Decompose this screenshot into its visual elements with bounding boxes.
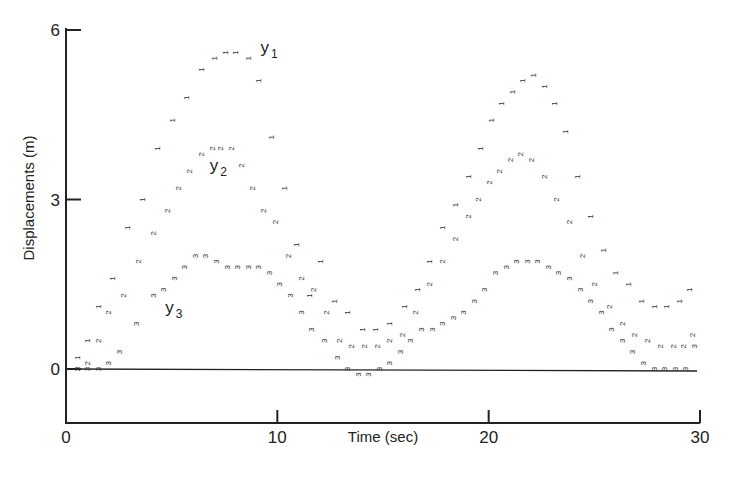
data-point-marker: 1 <box>182 95 191 100</box>
data-point-marker: 2 <box>322 310 331 315</box>
data-point-marker: 1 <box>529 72 538 77</box>
data-point-marker: 3 <box>586 298 595 303</box>
data-point-marker: 3 <box>417 327 426 332</box>
y-axis-title: Displacements (m) <box>20 135 37 260</box>
data-point-marker: 2 <box>506 157 515 162</box>
data-point-marker: 2 <box>83 361 92 366</box>
data-point-marker: 2 <box>464 214 473 219</box>
series-label-y2: y2 <box>210 156 228 179</box>
data-point-marker: 2 <box>540 174 549 179</box>
data-point-marker: 3 <box>491 270 500 275</box>
data-point-marker: 3 <box>180 265 189 270</box>
data-point-marker: 2 <box>360 344 369 349</box>
data-point-marker: 1 <box>244 55 253 60</box>
data-point-marker: 3 <box>512 259 521 264</box>
data-point-marker: 3 <box>333 355 342 360</box>
data-point-marker: 3 <box>364 372 373 377</box>
data-point-marker: 2 <box>656 344 665 349</box>
data-point-marker: 2 <box>618 321 627 326</box>
data-point-marker: 2 <box>347 344 356 349</box>
data-point-marker: 3 <box>254 265 263 270</box>
data-point-marker: 1 <box>518 78 527 83</box>
data-point-marker: 3 <box>354 372 363 377</box>
data-point-marker: 1 <box>371 327 380 332</box>
data-point-marker: 2 <box>398 332 407 337</box>
data-point-marker: 1 <box>561 129 570 134</box>
data-point-marker: 3 <box>480 287 489 292</box>
data-point-marker: 1 <box>210 55 219 60</box>
data-point-marker: 1 <box>662 304 671 309</box>
data-point-marker: 2 <box>373 344 382 349</box>
y-tick-label: 0 <box>51 360 60 379</box>
x-tick-label: 0 <box>61 428 70 447</box>
data-point-marker: 2 <box>630 332 639 337</box>
data-point-marker: 2 <box>174 185 183 190</box>
data-point-marker: 3 <box>385 361 394 366</box>
data-point-marker: 1 <box>464 174 473 179</box>
data-point-marker: 3 <box>607 327 616 332</box>
data-point-marker: 1 <box>73 355 82 360</box>
data-point-marker: 2 <box>248 185 257 190</box>
data-point-marker: 2 <box>185 168 194 173</box>
data-point-marker: 2 <box>474 197 483 202</box>
data-point-marker: 1 <box>153 146 162 151</box>
data-point-marker: 3 <box>523 259 532 264</box>
x-tick-label: 20 <box>479 428 498 447</box>
data-point-marker: 1 <box>138 197 147 202</box>
data-point-marker: 1 <box>540 84 549 89</box>
data-point-marker: 2 <box>104 310 113 315</box>
data-point-marker: 2 <box>605 304 614 309</box>
data-point-marker: 1 <box>650 304 659 309</box>
data-point-marker: 3 <box>115 349 124 354</box>
data-point-marker: 1 <box>573 174 582 179</box>
data-point-marker: 3 <box>159 287 168 292</box>
data-point-marker: 3 <box>375 366 384 371</box>
data-point-marker: 1 <box>385 321 394 326</box>
data-point-marker: 3 <box>628 349 637 354</box>
data-point-marker: 2 <box>643 338 652 343</box>
data-point-marker: 1 <box>624 281 633 286</box>
data-point-marker: 1 <box>637 298 646 303</box>
data-point-marker: 2 <box>227 146 236 151</box>
y-tick-label: 3 <box>51 191 60 210</box>
data-point-marker: 2 <box>578 253 587 258</box>
data-point-marker: 3 <box>396 349 405 354</box>
data-point-marker: 2 <box>516 152 525 157</box>
data-point-marker: 1 <box>476 146 485 151</box>
data-point-marker: 3 <box>428 327 437 332</box>
data-point-marker: 2 <box>565 219 574 224</box>
data-point-marker: 1 <box>413 287 422 292</box>
data-point-marker: 2 <box>485 180 494 185</box>
data-point-marker: 2 <box>134 259 143 264</box>
data-point-marker: 3 <box>320 338 329 343</box>
data-point-marker: 3 <box>660 366 669 371</box>
data-point-marker: 3 <box>576 287 585 292</box>
data-point-marker: 2 <box>149 231 158 236</box>
data-point-marker: 2 <box>197 152 206 157</box>
x-tick-label: 30 <box>691 428 710 447</box>
data-point-marker: 3 <box>544 265 553 270</box>
data-point-marker: 1 <box>438 225 447 230</box>
data-point-marker: 2 <box>451 236 460 241</box>
data-point-marker: 1 <box>197 67 206 72</box>
series-label-y3: y3 <box>165 298 183 321</box>
data-point-marker: 2 <box>259 208 268 213</box>
data-point-marker: 1 <box>231 50 240 55</box>
data-point-marker: 1 <box>343 310 352 315</box>
data-point-marker: 3 <box>286 293 295 298</box>
data-point-marker: 2 <box>552 197 561 202</box>
data-point-marker: 2 <box>309 287 318 292</box>
data-point-marker: 1 <box>221 50 230 55</box>
data-point-marker: 3 <box>212 259 221 264</box>
data-point-marker: 3 <box>191 253 200 258</box>
data-point-marker: 3 <box>233 265 242 270</box>
data-point-marker: 3 <box>275 281 284 286</box>
data-point-marker: 1 <box>108 276 117 281</box>
data-point-marker: 1 <box>487 118 496 123</box>
data-point-marker: 3 <box>690 344 699 349</box>
data-point-marker: 3 <box>639 361 648 366</box>
data-point-marker: 1 <box>675 298 684 303</box>
data-point-marker: 3 <box>533 259 542 264</box>
data-point-marker: 3 <box>449 315 458 320</box>
data-point-marker: 1 <box>358 327 367 332</box>
